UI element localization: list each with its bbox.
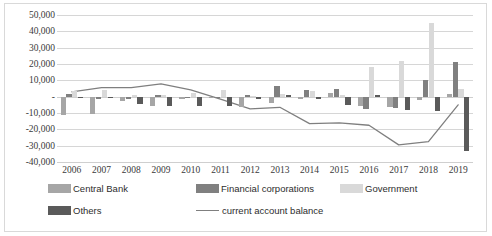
x-axis-tick-label: 2007 [87, 163, 117, 179]
bar [221, 90, 226, 97]
bar-group [414, 15, 444, 162]
bar [66, 94, 71, 97]
bar [310, 91, 315, 96]
bar [90, 97, 95, 114]
bar-group [87, 15, 117, 162]
bar [280, 94, 285, 96]
x-axis-tick-label: 2006 [57, 163, 87, 179]
y-axis-tick-label: -20,000 [3, 124, 55, 134]
bar [375, 95, 380, 97]
x-axis-tick-label: 2014 [295, 163, 325, 179]
legend-label: Central Bank [73, 183, 128, 194]
bar [334, 89, 339, 97]
legend-line-swatch [196, 206, 219, 215]
bar [345, 97, 350, 105]
y-axis: 50,00040,00030,00020,00010,000--10,000-2… [0, 15, 55, 162]
y-axis-tick-label: -10,000 [3, 108, 55, 118]
bar [108, 97, 113, 98]
bar [179, 97, 184, 99]
legend-item[interactable]: Financial corporations [196, 183, 314, 194]
bar [78, 97, 83, 99]
legend-label: Government [365, 183, 417, 194]
bar [167, 97, 172, 107]
bar-group [146, 15, 176, 162]
bar [387, 97, 392, 107]
bar [245, 95, 250, 97]
bar [298, 97, 303, 99]
bar-group [384, 15, 414, 162]
bar [464, 97, 469, 151]
bar [161, 95, 166, 97]
legend-item[interactable]: Central Bank [48, 183, 128, 194]
x-axis-tick-label: 2017 [384, 163, 414, 179]
bar [363, 97, 368, 110]
x-axis-tick-label: 2016 [354, 163, 384, 179]
bar [453, 62, 458, 97]
chart-legend: Central BankFinancial corporationsGovern… [48, 180, 468, 224]
legend-color-swatch [340, 184, 363, 193]
bar [61, 97, 66, 116]
bar [269, 97, 274, 104]
bar [197, 97, 202, 106]
legend-label: Others [73, 205, 102, 216]
bar [96, 97, 101, 99]
y-axis-tick-label: -30,000 [3, 141, 55, 151]
legend-color-swatch [48, 184, 71, 193]
x-axis-tick-label: 2008 [116, 163, 146, 179]
bar-group [295, 15, 325, 162]
bar [239, 97, 244, 107]
bar [191, 93, 196, 97]
bar [185, 97, 190, 99]
x-axis-tick-label: 2010 [176, 163, 206, 179]
x-axis: 2006200720082009201020112012201320142015… [57, 163, 473, 179]
legend-color-swatch [48, 206, 71, 215]
bar [340, 95, 345, 97]
y-axis-tick-label: 30,000 [3, 43, 55, 53]
legend-item[interactable]: Government [340, 183, 417, 194]
y-axis-tick-label: - [3, 92, 55, 102]
bar-group [116, 15, 146, 162]
x-axis-tick-label: 2012 [235, 163, 265, 179]
y-axis-tick-label: 40,000 [3, 26, 55, 36]
legend-label: current account balance [222, 205, 323, 216]
bar [155, 95, 160, 97]
bar [399, 61, 404, 97]
bar-group [235, 15, 265, 162]
legend-label: Financial corporations [221, 183, 314, 194]
y-axis-tick-label: 50,000 [3, 10, 55, 20]
bar [405, 97, 410, 110]
legend-row: Central BankFinancial corporationsGovern… [48, 180, 468, 196]
bar [316, 97, 321, 99]
bar [126, 97, 131, 99]
x-axis-tick-label: 2018 [414, 163, 444, 179]
bar [215, 97, 220, 99]
bar [250, 96, 255, 97]
bar [120, 97, 125, 102]
bar [256, 97, 261, 99]
bar [393, 97, 398, 108]
bar [150, 97, 155, 106]
y-axis-tick-label: -40,000 [3, 157, 55, 167]
bar [417, 97, 422, 100]
legend-item[interactable]: current account balance [196, 205, 323, 216]
bar-group [206, 15, 236, 162]
legend-color-swatch [196, 184, 219, 193]
bar [286, 95, 291, 96]
bar [358, 97, 363, 107]
bar [423, 80, 428, 97]
chart-figure: 50,00040,00030,00020,00010,000--10,000-2… [0, 0, 492, 236]
bar-group [354, 15, 384, 162]
x-axis-tick-label: 2019 [443, 163, 473, 179]
bar [132, 95, 137, 97]
bar [209, 97, 214, 99]
legend-item[interactable]: Others [48, 205, 102, 216]
x-axis-tick-label: 2011 [206, 163, 236, 179]
bar [304, 90, 309, 96]
bar [369, 67, 374, 96]
x-axis-tick-label: 2013 [265, 163, 295, 179]
bar [447, 94, 452, 96]
bar [458, 89, 463, 96]
bar [102, 90, 107, 97]
bar [72, 91, 77, 97]
bar-group [265, 15, 295, 162]
